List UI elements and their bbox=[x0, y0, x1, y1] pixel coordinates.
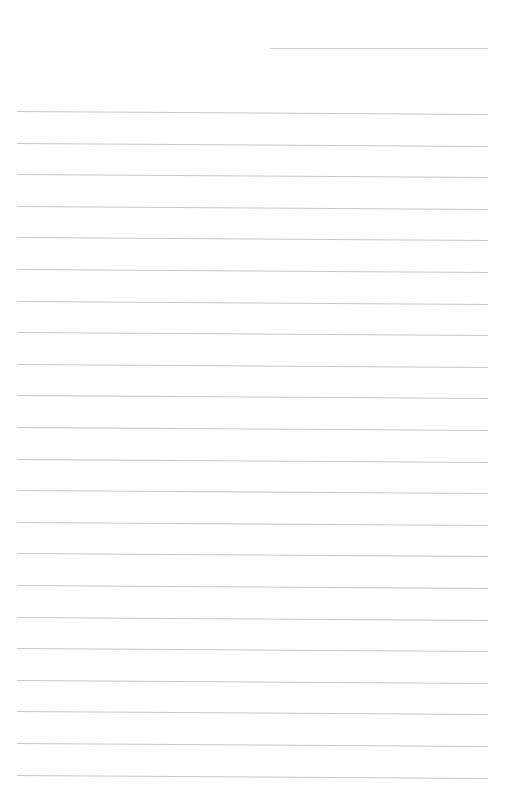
ruled-line bbox=[17, 775, 488, 779]
ruled-line bbox=[17, 395, 488, 399]
ruled-line bbox=[17, 553, 488, 557]
ruled-line bbox=[17, 617, 488, 621]
ruled-line bbox=[17, 111, 488, 115]
ruled-line bbox=[17, 364, 488, 368]
ruled-line bbox=[17, 490, 488, 494]
ruled-line bbox=[17, 206, 488, 210]
notebook-page bbox=[0, 0, 510, 805]
ruled-line bbox=[17, 522, 488, 526]
header-date-line bbox=[270, 48, 488, 49]
ruled-line bbox=[17, 143, 488, 147]
ruled-line bbox=[17, 427, 488, 431]
ruled-line bbox=[17, 711, 488, 715]
ruled-line bbox=[17, 743, 488, 747]
ruled-line bbox=[17, 301, 488, 305]
ruled-line bbox=[17, 585, 488, 589]
ruled-line bbox=[17, 459, 488, 463]
ruled-line bbox=[17, 269, 488, 273]
ruled-line bbox=[17, 680, 488, 684]
ruled-line bbox=[17, 648, 488, 652]
ruled-line bbox=[17, 237, 488, 241]
ruled-line bbox=[17, 332, 488, 336]
ruled-line bbox=[17, 174, 488, 178]
